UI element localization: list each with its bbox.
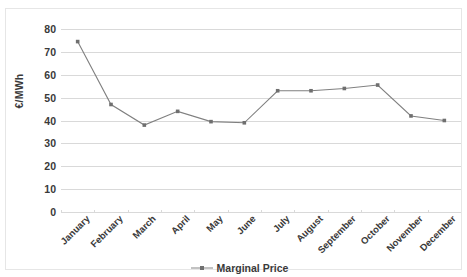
x-tick-mark-march (128, 210, 129, 213)
data-point-december (443, 119, 447, 123)
y-tick-label-10: 10 (16, 184, 56, 195)
x-tick-mark-july (261, 210, 262, 213)
x-tick-mark-february (94, 210, 95, 213)
x-tick-mark-october (361, 210, 362, 213)
data-point-october (376, 83, 380, 87)
series-path-0 (78, 42, 445, 125)
y-tick-label-40: 40 (16, 116, 56, 127)
legend-item-marginal-price: Marginal Price (191, 262, 289, 274)
data-point-september (343, 87, 347, 91)
y-tick-label-0: 0 (16, 207, 56, 218)
x-tick-mark-september (328, 210, 329, 213)
data-point-february (109, 103, 113, 107)
x-tick-mark-december (428, 210, 429, 213)
data-point-november (409, 114, 413, 118)
y-axis-tick-labels: 01020304050607080 (12, 29, 56, 212)
data-point-march (143, 123, 147, 127)
x-tick-mark-may (194, 210, 195, 213)
chart-frame: €/MWh 01020304050607080 JanuaryFebruaryM… (5, 8, 462, 270)
data-point-july (276, 89, 280, 93)
y-tick-label-30: 30 (16, 138, 56, 149)
y-tick-label-60: 60 (16, 70, 56, 81)
y-tick-label-80: 80 (16, 24, 56, 35)
data-point-april (176, 110, 180, 114)
x-tick-mark-april (161, 210, 162, 213)
legend-label-marginal-price: Marginal Price (217, 262, 289, 274)
legend-line-marker-icon (191, 263, 213, 273)
x-tick-mark-january (61, 210, 62, 213)
y-tick-label-50: 50 (16, 93, 56, 104)
series-line-marginal-price (61, 29, 461, 212)
plot-area (61, 29, 461, 212)
x-axis-tick-labels: JanuaryFebruaryMarchAprilMayJuneJulyAugu… (61, 213, 461, 257)
data-point-may (209, 120, 213, 124)
data-point-june (243, 121, 247, 125)
y-tick-label-20: 20 (16, 161, 56, 172)
x-tick-mark-august (294, 210, 295, 213)
marginal-price-chart: €/MWh 01020304050607080 JanuaryFebruaryM… (0, 0, 467, 277)
chart-legend: Marginal Price (6, 259, 467, 275)
data-point-january (76, 40, 80, 44)
x-tick-mark-june (228, 210, 229, 213)
y-tick-label-70: 70 (16, 47, 56, 58)
x-tick-mark-november (394, 210, 395, 213)
data-point-august (309, 89, 313, 93)
